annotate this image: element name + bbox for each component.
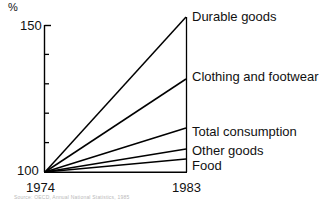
x-tick-label-1983: 1983: [172, 180, 201, 195]
x-tick-label-1974: 1974: [26, 180, 55, 195]
source-note: Source: OECD, Annual National Statistics…: [14, 194, 129, 200]
series-label-clothing-and-footwear: Clothing and footwear: [192, 69, 318, 84]
series-line-durable-goods: [45, 17, 186, 172]
series-label-durable-goods: Durable goods: [192, 9, 277, 24]
y-tick-label-150: 150: [20, 18, 42, 33]
line-chart: % 150 100 1974 1983 Durable goods Clothi…: [0, 0, 331, 204]
y-tick-label-100: 100: [17, 163, 39, 178]
series-label-other-goods: Other goods: [192, 143, 264, 158]
series-line-clothing-and-footwear: [45, 79, 186, 172]
series-label-total-consumption: Total consumption: [192, 124, 297, 139]
y-axis-unit-label: %: [8, 1, 18, 13]
chart-plot-area: [0, 0, 331, 204]
series-label-food: Food: [192, 158, 222, 173]
